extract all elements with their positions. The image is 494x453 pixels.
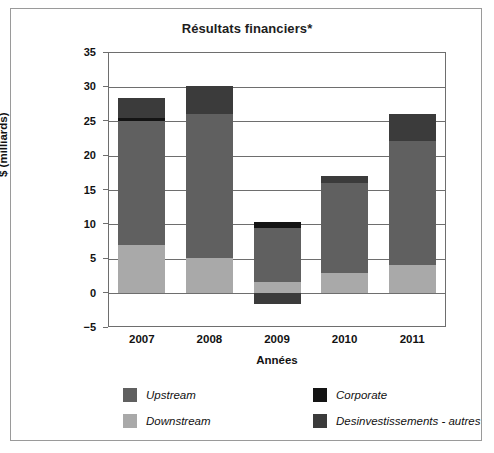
bar-group [254,52,301,327]
chart-figure: Résultats financiers* −505101520253035 $… [10,8,482,441]
y-axis-tick-label: 35 [56,46,96,58]
legend-item-label: Desinvestissements - autres [336,415,480,427]
bar-segment [254,293,301,305]
legend-item-label: Upstream [146,389,196,401]
bar-segment [118,98,165,118]
bar-segment [389,114,436,142]
legend-item-label: Corporate [336,389,387,401]
bar-segment [389,141,436,265]
legend-swatch-icon [123,414,137,428]
x-axis-tick-label: 2011 [377,333,447,345]
y-axis-tick-label: −5 [56,321,96,333]
bar-segment [321,176,368,183]
bar-segment [118,118,165,121]
y-axis-tick-label: 0 [56,287,96,299]
legend-item[interactable]: Corporate [313,388,387,402]
y-axis-tick-label: 15 [56,184,96,196]
chart-legend: UpstreamCorporateDownstreamDesinvestisse… [108,384,458,434]
bar-segment [321,273,368,293]
bar-segment [254,282,301,293]
legend-item[interactable]: Downstream [123,414,211,428]
legend-swatch-icon [123,388,137,402]
bar-segment [321,183,368,273]
y-axis-tick-label: 20 [56,149,96,161]
bar-segment [186,86,233,114]
bar-segment [118,245,165,293]
y-axis-tick-label: 30 [56,80,96,92]
x-axis-tick-label: 2007 [107,333,177,345]
legend-item-label: Downstream [146,415,211,427]
bar-segment [389,265,436,293]
x-axis-tick-label: 2009 [242,333,312,345]
x-axis-tick-label: 2008 [174,333,244,345]
y-axis-label: $ (milliards) [0,112,9,177]
bar-segment [254,222,301,228]
legend-swatch-icon [313,388,327,402]
bar-group [321,52,368,327]
legend-item[interactable]: Upstream [123,388,196,402]
x-axis-label: Années [108,354,446,366]
bar-group [186,52,233,327]
y-axis-tick-label: 5 [56,252,96,264]
y-axis-tick-label: 25 [56,115,96,127]
bar-group [389,52,436,327]
bar-group [118,52,165,327]
chart-title: Résultats financiers* [11,21,483,36]
legend-item[interactable]: Desinvestissements - autres [313,414,480,428]
bar-segment [186,114,233,258]
x-axis-tick-label: 2010 [310,333,380,345]
y-axis-tick-label: 10 [56,218,96,230]
bar-segment [118,121,165,245]
legend-swatch-icon [313,414,327,428]
bar-segment [186,258,233,292]
bar-segment [254,228,301,282]
